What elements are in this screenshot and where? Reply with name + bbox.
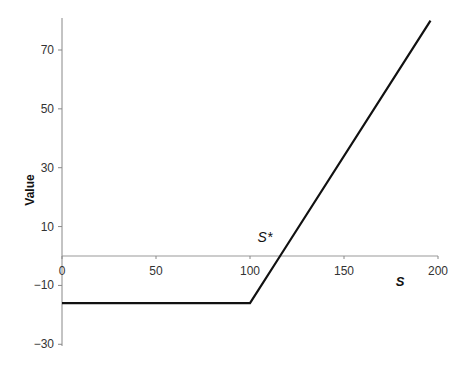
y-tick-label: 50	[41, 102, 55, 116]
x-tick-label: 150	[334, 264, 354, 278]
y-tick-label: −10	[34, 278, 55, 292]
y-tick-label: 70	[41, 43, 55, 57]
s-star-annotation: S*	[258, 229, 273, 245]
x-tick-label: 200	[428, 264, 448, 278]
y-tick-label: 30	[41, 161, 55, 175]
y-tick-label: −30	[34, 337, 55, 351]
axes	[62, 18, 438, 346]
payoff-line	[62, 21, 431, 304]
payoff-chart: −30−1010305070050100150200 Value S S*	[0, 0, 469, 367]
x-tick-label: 100	[240, 264, 260, 278]
x-axis-title: S	[396, 274, 405, 289]
y-tick-label: 10	[41, 220, 55, 234]
x-tick-label: 50	[149, 264, 163, 278]
series	[62, 21, 431, 304]
x-tick-label: 0	[59, 264, 66, 278]
y-axis-title: Value	[23, 174, 37, 206]
